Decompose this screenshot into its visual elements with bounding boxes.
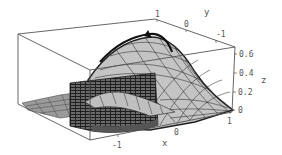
y-tick-0: 0 — [184, 20, 189, 29]
y-tick-1: 1 — [155, 10, 160, 19]
x-tick-1: 1 — [227, 117, 232, 126]
surface-plot-3d: 1 0 -1 y 0.6 0.4 0.2 0 z -1 0 1 x — [0, 0, 282, 155]
x-axis-label: x — [162, 138, 168, 148]
y-tick-neg1: -1 — [216, 30, 226, 39]
z-tick-0: 0 — [238, 106, 243, 115]
y-axis: 1 0 -1 y — [155, 7, 226, 43]
z-tick-0.2: 0.2 — [238, 88, 253, 97]
z-axis-label: z — [261, 75, 266, 85]
y-axis-label: y — [204, 7, 210, 17]
x-tick-neg1: -1 — [112, 141, 122, 150]
x-tick-0: 0 — [174, 128, 179, 137]
z-axis: 0.6 0.4 0.2 0 z — [232, 50, 266, 115]
z-tick-0.4: 0.4 — [239, 69, 254, 78]
z-tick-0.6: 0.6 — [239, 50, 254, 59]
